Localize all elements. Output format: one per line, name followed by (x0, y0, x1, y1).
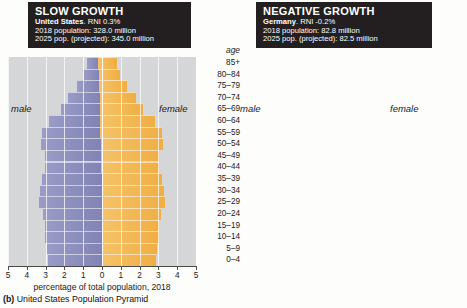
male-bar (40, 185, 102, 197)
x-axis-tick-label: 1 (114, 270, 128, 280)
gridline (8, 57, 9, 266)
callout-projected: 2025 pop. (projected): 82.5 million (263, 35, 426, 44)
female-bar (103, 220, 159, 232)
male-bar (39, 196, 103, 208)
male-bar (42, 127, 100, 139)
x-axis-tick-label: 4 (170, 270, 184, 280)
male-bar (42, 173, 102, 185)
gridline (140, 57, 141, 266)
female-bar (101, 150, 159, 162)
female-bar (101, 138, 163, 150)
plot-area-united-states (8, 57, 196, 266)
x-axis-tick-label: 4 (20, 270, 34, 280)
female-label-us: female (159, 103, 188, 114)
x-axis-tick-label: 1 (76, 270, 90, 280)
panel-united-states: SLOW GROWTH United States. RNI 0.3% 2018… (0, 0, 232, 308)
male-bar (48, 254, 103, 266)
gridline (83, 57, 84, 266)
panel-germany: NEGATIVE GROWTH Germany. RNI -0.2% 2018 … (232, 0, 467, 308)
male-bar (84, 69, 99, 81)
callout-rni: . RNI 0.3% (84, 17, 121, 26)
gridline (158, 57, 159, 266)
population-pyramid-figure: SLOW GROWTH United States. RNI 0.3% 2018… (0, 0, 467, 308)
male-bar (45, 150, 101, 162)
female-bar (103, 254, 156, 266)
gridline (177, 57, 178, 266)
x-axis-tick-label: 2 (133, 270, 147, 280)
gridline (27, 57, 28, 266)
female-label-de: female (390, 103, 419, 114)
x-axis-tick-label: 0 (95, 270, 109, 280)
x-axis-title-us: percentage of total population, 2018 (8, 282, 196, 292)
female-bar (100, 92, 136, 104)
callout-country: United States (35, 17, 84, 26)
male-bar (77, 80, 100, 92)
male-bar (49, 115, 100, 127)
caption-label: (b) (3, 294, 14, 304)
gridline (102, 57, 103, 266)
x-axis-tick-label: 2 (57, 270, 71, 280)
callout-united-states: SLOW GROWTH United States. RNI 0.3% 2018… (28, 2, 191, 48)
female-bar (100, 115, 155, 127)
male-label-us: male (11, 103, 32, 114)
female-bar (103, 231, 159, 243)
x-axis-tick-label: 3 (151, 270, 165, 280)
female-bar (101, 162, 159, 174)
gridline (46, 57, 47, 266)
male-bar (45, 220, 103, 232)
female-bar (102, 185, 164, 197)
female-bar (103, 243, 158, 255)
x-axis-tick-label: 3 (39, 270, 53, 280)
callout-country: Germany (263, 17, 296, 26)
callout-rni: . RNI -0.2% (296, 17, 335, 26)
caption-text: United States Population Pyramid (17, 294, 149, 304)
male-bar (45, 162, 101, 174)
male-bar (61, 103, 100, 115)
female-bar (99, 80, 127, 92)
male-bar (41, 138, 101, 150)
male-bar (43, 208, 103, 220)
caption-united-states: (b) United States Population Pyramid (3, 294, 148, 304)
gridline (64, 57, 65, 266)
male-label-de: male (240, 103, 261, 114)
male-bar (45, 231, 103, 243)
male-bar (47, 243, 103, 255)
gridline (121, 57, 122, 266)
male-bar (87, 57, 98, 69)
x-axis-tick-label: 5 (1, 270, 15, 280)
callout-germany: NEGATIVE GROWTH Germany. RNI -0.2% 2018 … (256, 2, 432, 48)
callout-heading: NEGATIVE GROWTH (263, 5, 426, 17)
female-bar (100, 127, 162, 139)
female-bar (103, 208, 161, 220)
female-bar (102, 173, 162, 185)
female-bar (103, 196, 165, 208)
x-axis-tick-label: 5 (189, 270, 203, 280)
callout-heading: SLOW GROWTH (35, 5, 185, 17)
callout-projected: 2025 pop. (projected): 345.0 million (35, 35, 185, 44)
